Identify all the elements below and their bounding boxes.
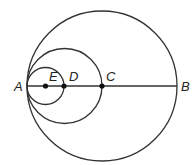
point-c [99,83,104,88]
diagram-canvas: A E D C B [0,0,195,165]
point-e [43,83,48,88]
label-a: A [13,79,23,94]
point-d [61,83,66,88]
label-b: B [181,79,190,94]
label-e: E [49,69,58,84]
geometry-diagram: A E D C B [0,0,195,165]
label-c: C [106,69,116,84]
label-d: D [69,69,78,84]
